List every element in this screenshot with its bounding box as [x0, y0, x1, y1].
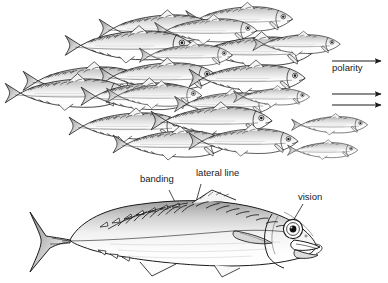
vision-label: vision	[298, 192, 322, 202]
school-fish	[287, 140, 357, 160]
school-panel	[5, 2, 367, 160]
polarity-label: polarity	[332, 63, 363, 73]
illustration-canvas	[0, 0, 388, 283]
school-fish	[292, 114, 368, 135]
specimen-pelvic-fin	[214, 265, 240, 277]
lateral-line-label: lateral line	[196, 168, 239, 178]
specimen-mouth	[291, 240, 320, 250]
fish-school-illustration: polarity banding lateral line vision	[0, 0, 388, 283]
specimen-panel	[30, 190, 322, 277]
specimen-caudal-fin	[30, 212, 70, 272]
banding-label: banding	[140, 174, 174, 184]
specimen-anal-fin	[140, 262, 176, 276]
specimen-body	[70, 201, 316, 266]
specimen-eye-pupil	[290, 226, 297, 233]
